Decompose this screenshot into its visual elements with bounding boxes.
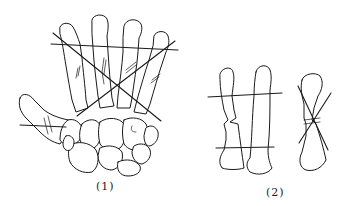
diagram-canvas (0, 0, 343, 206)
carpal-pisiform (144, 126, 158, 146)
carpal-distal (117, 160, 140, 176)
intact-bone-right (247, 66, 272, 174)
metacarpal-index (60, 23, 88, 112)
panel-2-label: (2) (266, 186, 285, 199)
fractured-bone-left (220, 68, 244, 169)
carpal-triquetrum (132, 144, 151, 164)
panel-2-bones (208, 66, 331, 174)
carpal-capitate (99, 118, 126, 150)
transverse-line-upper (208, 93, 282, 97)
carpal-small (63, 135, 74, 150)
metacarpal-middle (92, 15, 114, 108)
panel-1-hand (19, 15, 178, 176)
panel-1-label: (1) (96, 180, 115, 193)
metacarpal-little (134, 32, 169, 115)
